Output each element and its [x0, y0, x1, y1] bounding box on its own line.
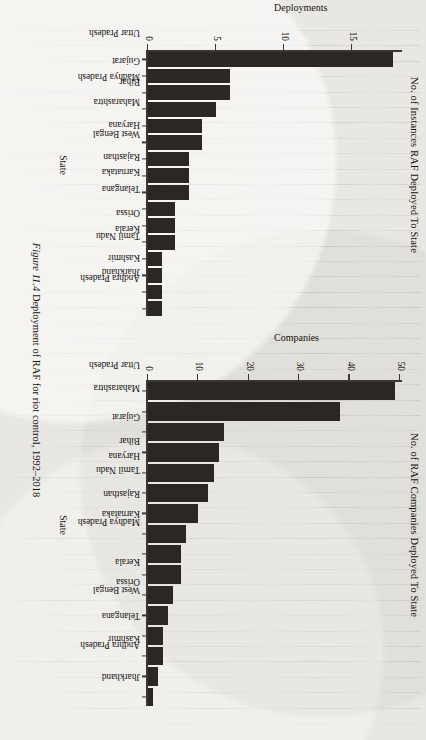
category-label-text: Karnataka	[102, 167, 140, 177]
x-axis-ticks-instances	[142, 52, 147, 316]
bar	[148, 586, 173, 604]
bar	[148, 202, 175, 217]
x-axis-category-label: Andhra Pradesh	[66, 301, 140, 316]
y-axis-tick: 5	[215, 44, 216, 50]
x-axis-tick	[142, 168, 147, 183]
x-axis-tick	[142, 525, 147, 543]
bar	[148, 85, 230, 100]
x-axis-tick	[142, 268, 147, 283]
bar	[148, 301, 162, 316]
x-axis-tick	[142, 152, 147, 167]
category-label-text: Maharashtra	[94, 97, 140, 107]
x-axis-title-companies: State	[58, 330, 69, 720]
category-label-text: Orissa	[116, 208, 140, 218]
category-label-text: Jharkhand	[102, 672, 140, 682]
y-axis-tick: 30	[298, 374, 299, 380]
x-axis-tick	[142, 464, 147, 482]
x-axis-title-instances: State	[58, 0, 69, 330]
category-label-text: West Bengal	[93, 586, 140, 596]
bar	[148, 268, 162, 283]
bar	[148, 69, 230, 84]
y-axis-title-companies: Companies	[274, 332, 319, 343]
bar	[148, 525, 186, 543]
bar	[148, 627, 163, 645]
x-axis-tick	[142, 301, 147, 316]
x-axis-tick	[142, 504, 147, 522]
figure-container: No. of Instances RAF Deployed To State 0…	[0, 0, 426, 740]
y-axis-tick: 40	[348, 374, 349, 380]
bar	[148, 218, 175, 233]
x-axis-tick	[142, 102, 147, 117]
x-axis-tick	[142, 218, 147, 233]
y-axis-tick-label: 0	[144, 366, 154, 371]
y-axis-tick: 10	[197, 374, 198, 380]
chart-panel-instances: No. of Instances RAF Deployed To State 0…	[54, 0, 426, 330]
rotated-figure: No. of Instances RAF Deployed To State 0…	[0, 0, 426, 740]
category-label-text: Gujarat	[112, 412, 140, 422]
x-axis-tick	[142, 135, 147, 150]
category-label-text: Andhra Pradesh	[80, 273, 140, 283]
x-axis-tick	[142, 586, 147, 604]
category-label-text: Uttar Pradesh	[89, 28, 140, 38]
category-label-text: Gujarat	[112, 56, 140, 66]
figure-caption-text: Deployment of RAF for riot control, 1992…	[31, 294, 42, 497]
bar	[148, 382, 395, 400]
x-axis-tick	[142, 688, 147, 706]
y-axis-tick: 15	[351, 44, 352, 50]
x-axis-category-label: Jharkhand	[66, 285, 140, 300]
x-axis-category-labels-instances: Uttar PradeshGujaratBiharMadhya PradeshM…	[66, 52, 140, 316]
category-label-text: Telangana	[102, 611, 140, 621]
category-label-text: Tamil Nadu	[96, 231, 140, 241]
bar	[148, 285, 162, 300]
bar	[148, 606, 168, 624]
x-axis-tick	[142, 545, 147, 563]
x-axis-tick	[142, 202, 147, 217]
y-axis-title-instances: Deployments	[274, 2, 327, 13]
y-axis-tick-label: 20	[245, 362, 255, 371]
bar	[148, 688, 153, 706]
category-label-text: Kashmir	[108, 253, 140, 263]
y-axis-tick-label: 0	[144, 36, 154, 41]
figure-number: Figure 11.4	[31, 243, 42, 291]
x-axis-category-labels-companies: Uttar PradeshMaharashtraGujaratBiharHary…	[66, 382, 140, 706]
y-axis-tick-label: 30	[295, 362, 305, 371]
x-axis-tick	[142, 69, 147, 84]
y-axis-tick: 0	[147, 44, 148, 50]
y-axis-tick-label: 5	[212, 36, 222, 41]
bar	[148, 252, 162, 267]
x-axis-tick	[142, 443, 147, 461]
chart-title-companies: No. of RAF Companies Deployed To State	[409, 330, 420, 720]
x-axis-tick	[142, 423, 147, 441]
x-axis-tick	[142, 484, 147, 502]
y-axis-tick-label: 50	[396, 362, 406, 371]
bar	[148, 119, 202, 134]
category-label-text: Bihar	[119, 436, 140, 446]
bar	[148, 168, 189, 183]
x-axis-tick	[142, 252, 147, 267]
category-label-text: Tamil Nadu	[96, 465, 140, 475]
bar	[148, 52, 393, 67]
bar	[148, 135, 202, 150]
y-axis-tick: 20	[248, 374, 249, 380]
category-label-text: Andhra Pradesh	[80, 641, 140, 651]
category-label-text: West Bengal	[93, 130, 140, 140]
bar	[148, 504, 198, 522]
y-axis-tick-label: 40	[346, 362, 356, 371]
bar	[148, 464, 214, 482]
bar	[148, 484, 208, 502]
x-axis-tick	[142, 565, 147, 583]
x-axis-tick	[142, 185, 147, 200]
y-axis-tick: 50	[399, 374, 400, 380]
x-axis-tick	[142, 647, 147, 665]
category-label-text: Kerala	[115, 556, 140, 566]
x-axis-tick	[142, 627, 147, 645]
bar	[148, 443, 219, 461]
bar	[148, 667, 158, 685]
x-axis-category-label: Jharkhand	[66, 688, 140, 706]
bars-instances	[148, 52, 400, 316]
bar	[148, 102, 216, 117]
chart-panels: No. of Instances RAF Deployed To State 0…	[54, 0, 426, 740]
bar	[148, 152, 189, 167]
category-label-text: Rajasthan	[103, 489, 140, 499]
x-axis-tick	[142, 52, 147, 67]
